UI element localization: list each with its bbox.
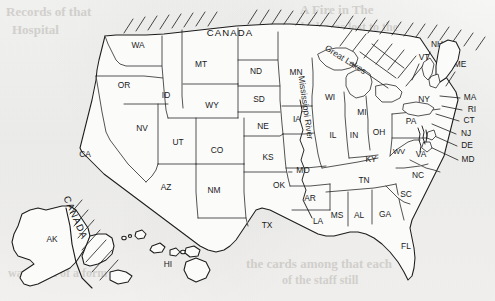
state-label-wi: WI — [325, 92, 335, 102]
state-label-ky: KY — [365, 154, 377, 164]
state-label-ny: NY — [418, 94, 430, 104]
state-label-ok: OK — [273, 180, 286, 190]
state-label-in: IN — [350, 130, 358, 140]
state-label-mi: MI — [357, 107, 366, 117]
state-label-sd: SD — [253, 94, 265, 104]
state-label-la: LA — [313, 216, 324, 226]
state-label-ks: KS — [262, 152, 274, 162]
state-label-ga: GA — [379, 209, 392, 219]
state-label-wa: WA — [131, 40, 145, 50]
state-label-az: AZ — [161, 182, 172, 192]
state-label-ma: MA — [464, 92, 477, 102]
state-label-sc: SC — [400, 189, 412, 199]
state-label-wv: WV — [393, 147, 406, 156]
state-label-ne: NE — [257, 121, 269, 131]
state-label-ia: IA — [293, 114, 301, 124]
state-label-nv: NV — [136, 123, 148, 133]
state-label-fl: FL — [401, 241, 411, 251]
state-label-co: CO — [211, 145, 224, 155]
state-label-ca: CA — [79, 149, 91, 159]
state-label-ak: AK — [46, 234, 58, 244]
us-reference-map: Records of that Hospital A Fire in The w… — [0, 0, 495, 301]
state-label-ri: RI — [468, 104, 476, 114]
state-label-wy: WY — [205, 100, 219, 110]
state-label-de: DE — [461, 140, 473, 150]
state-label-tn: TN — [358, 175, 369, 185]
state-label-hi: HI — [164, 259, 172, 269]
state-label-al: AL — [354, 210, 365, 220]
state-label-oh: OH — [373, 127, 386, 137]
map-canvas: CANADA — [0, 0, 495, 301]
state-label-id: ID — [162, 90, 170, 100]
alaska: CANADA — [12, 194, 132, 288]
state-label-mt: MT — [195, 59, 207, 69]
state-label-tx: TX — [262, 220, 273, 230]
state-label-il: IL — [330, 130, 337, 140]
state-label-ut: UT — [172, 137, 183, 147]
state-label-nc: NC — [412, 170, 424, 180]
state-label-mo: MO — [296, 165, 310, 175]
state-label-pa: PA — [406, 116, 417, 126]
state-label-md: MD — [461, 154, 474, 164]
state-label-ms: MS — [331, 210, 344, 220]
state-label-ct: CT — [463, 115, 474, 125]
state-label-nj: NJ — [461, 128, 471, 138]
state-label-or: OR — [118, 80, 131, 90]
state-label-ar: AR — [304, 193, 316, 203]
country-label-canada: CANADA — [207, 27, 254, 38]
state-label-nd: ND — [250, 66, 262, 76]
state-label-nm: NM — [207, 185, 220, 195]
state-label-mn: MN — [289, 67, 302, 77]
